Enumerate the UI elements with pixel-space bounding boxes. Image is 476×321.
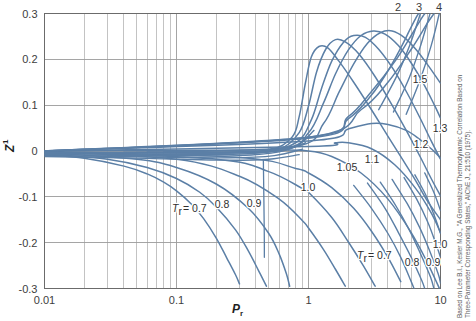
y-tick-label: 0.1 xyxy=(22,99,37,111)
y-axis-title-text: Z xyxy=(3,144,17,153)
y-tick-label: 0.2 xyxy=(22,53,37,65)
curve-label-left: 1.0 xyxy=(301,181,316,193)
tr-value: = 0.7 xyxy=(368,249,392,261)
curve-label-left: 1.2 xyxy=(414,138,429,150)
curve-label-right: 1.0 xyxy=(433,238,448,250)
curve-label-left: 1.1 xyxy=(365,153,380,165)
source-credit-line2: Three-Parameter Corresponding States," A… xyxy=(464,130,472,318)
y-axis-title-superscript: 1 xyxy=(1,139,10,144)
tr-subscript: r xyxy=(179,205,183,217)
curve-label-left: 1.5 xyxy=(413,73,428,85)
x-axis-title-subscript: r xyxy=(240,309,243,318)
z1-correlation-chart: 0.30.20.10-0.1-0.2-0.30.010.1110 Tr = 0.… xyxy=(0,0,476,321)
curve-label-top: 4 xyxy=(436,1,442,13)
tr-value: = 0.7 xyxy=(183,202,207,214)
x-tick-label: 10 xyxy=(434,294,446,306)
y-tick-label: -0.2 xyxy=(19,237,38,249)
tr-subscript: r xyxy=(364,252,368,264)
curve-label-right: 0.8 xyxy=(405,256,420,268)
y-tick-label: 0.3 xyxy=(22,8,37,20)
chart-figure: 0.30.20.10-0.1-0.2-0.30.010.1110 Tr = 0.… xyxy=(0,0,476,321)
curve-label-left: 0.8 xyxy=(215,198,230,210)
curve-label-left: 1.05 xyxy=(337,161,358,173)
curve-label-right: 0.9 xyxy=(426,256,441,268)
curve-label-top: 3 xyxy=(416,1,422,13)
y-tick-label: -0.1 xyxy=(19,191,38,203)
curve-label-top: 2 xyxy=(395,1,401,13)
source-credit-line1: Based on Lee B.I., Kesler M.G., "A Gener… xyxy=(456,74,464,318)
curve-label-left: 1.3 xyxy=(433,122,448,134)
x-tick-label: 1 xyxy=(305,294,311,306)
x-tick-label: 0.01 xyxy=(34,294,55,306)
x-tick-label: 0.1 xyxy=(169,294,184,306)
y-tick-label: 0 xyxy=(31,145,37,157)
curve-label-left: 0.9 xyxy=(247,197,262,209)
